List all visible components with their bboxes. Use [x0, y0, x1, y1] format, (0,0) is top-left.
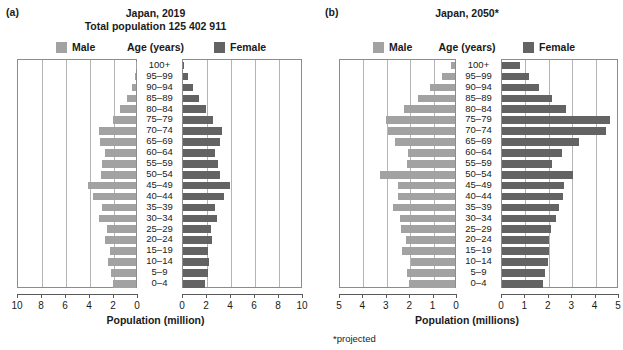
x-axis-tick [524, 294, 525, 298]
x-axis-tick [548, 294, 549, 298]
bar-male-55–59 [407, 160, 455, 168]
bar-row [18, 171, 136, 179]
bar-row [340, 258, 455, 266]
x-axis-tick [386, 294, 387, 298]
bar-female-30–34 [502, 215, 556, 223]
bar-male-0–4 [113, 280, 136, 288]
bar-female-30–34 [183, 215, 217, 223]
bar-row [340, 171, 455, 179]
x-axis-tick-label: 8 [268, 300, 288, 311]
bar-male-85–89 [418, 95, 455, 103]
bar-row [183, 204, 301, 212]
x-axis-tick-label: 5 [608, 300, 623, 311]
bar-row [502, 280, 617, 288]
population-pyramid-figure: (a) Japan, 2019 Total population 125 402… [0, 0, 623, 350]
bar-female-90–94 [183, 84, 193, 92]
bar-row [502, 215, 617, 223]
age-label-20–24: 20–24 [137, 234, 182, 244]
panel-a-axis-title: Population (million) [0, 314, 311, 326]
bar-female-80–84 [183, 105, 206, 113]
bar-female-45–49 [502, 182, 564, 190]
age-label-20–24: 20–24 [456, 234, 501, 244]
bar-male-15–19 [402, 247, 455, 255]
age-label-75–79: 75–79 [456, 114, 501, 124]
bar-row [502, 160, 617, 168]
bar-male-65–69 [100, 138, 136, 146]
bar-row [502, 193, 617, 201]
bar-row [183, 95, 301, 103]
bar-female-65–69 [183, 138, 220, 146]
legend-swatch-female-icon [214, 42, 225, 53]
age-label-0–4: 0–4 [456, 278, 501, 288]
bar-rows-left [340, 60, 455, 287]
bar-row [502, 269, 617, 277]
age-label-5–9: 5–9 [456, 267, 501, 277]
bar-row [502, 116, 617, 124]
bar-male-15–19 [110, 247, 136, 255]
x-axis-tick-label: 8 [31, 300, 51, 311]
panel-b-age-labels: 100+95–9990–9485–8980–8475–7970–7465–696… [456, 59, 501, 288]
x-axis-right [501, 294, 618, 295]
bar-female-15–19 [502, 247, 549, 255]
bar-row [502, 258, 617, 266]
bar-row [340, 73, 455, 81]
bar-row [18, 215, 136, 223]
panel-japan-2050: (b) Japan, 2050* Male Age (years) Female… [311, 0, 623, 350]
x-axis-tick [595, 294, 596, 298]
bar-male-95–99 [135, 73, 136, 81]
bar-male-25–29 [401, 225, 455, 233]
panel-b-title: Japan, 2050* [311, 7, 623, 20]
bar-male-100+ [451, 62, 455, 70]
age-label-80–84: 80–84 [137, 104, 182, 114]
bar-row [502, 138, 617, 146]
bar-row [183, 193, 301, 201]
x-axis-tick [113, 294, 114, 298]
legend-entry-female: Female [523, 41, 575, 53]
bar-rows-left [18, 60, 136, 287]
bar-female-80–84 [502, 105, 566, 113]
x-axis-tick [618, 294, 619, 298]
bar-row [183, 73, 301, 81]
bar-male-90–94 [132, 84, 136, 92]
bar-male-50–54 [101, 171, 136, 179]
x-axis-tick-label: 5 [329, 300, 349, 311]
x-axis-tick-label: 3 [376, 300, 396, 311]
bar-rows-right [183, 60, 301, 287]
bar-row [502, 127, 617, 135]
bar-row [183, 149, 301, 157]
legend-label-age: Age (years) [311, 41, 623, 53]
bar-female-5–9 [183, 269, 208, 277]
bar-row [340, 116, 455, 124]
age-label-10–14: 10–14 [456, 256, 501, 266]
bar-female-5–9 [502, 269, 545, 277]
bar-row [340, 182, 455, 190]
bar-row [183, 171, 301, 179]
bar-female-10–14 [183, 258, 209, 266]
bar-row [18, 105, 136, 113]
panel-japan-2019: (a) Japan, 2019 Total population 125 402… [0, 0, 311, 350]
age-label-95–99: 95–99 [137, 71, 182, 81]
age-label-35–39: 35–39 [137, 202, 182, 212]
panel-a-titles: Japan, 2019 Total population 125 402 911 [0, 7, 311, 33]
bar-row [183, 127, 301, 135]
x-axis-tick-label: 1 [514, 300, 534, 311]
x-axis-tick-label: 4 [79, 300, 99, 311]
x-axis-tick-label: 10 [7, 300, 27, 311]
bar-row [502, 149, 617, 157]
bar-female-75–79 [502, 116, 610, 124]
x-axis-tick [433, 294, 434, 298]
bar-male-80–84 [120, 105, 136, 113]
bar-row [18, 160, 136, 168]
bar-female-70–74 [502, 127, 606, 135]
age-label-30–34: 30–34 [456, 213, 501, 223]
age-label-70–74: 70–74 [456, 125, 501, 135]
bar-female-20–24 [502, 236, 549, 244]
bar-female-100+ [183, 62, 184, 70]
bar-male-10–14 [411, 258, 455, 266]
panel-b-axis-title: Population (millions) [311, 314, 623, 326]
bar-female-95–99 [502, 73, 529, 81]
x-axis-tick [230, 294, 231, 298]
bar-female-75–79 [183, 116, 213, 124]
bar-male-70–74 [388, 127, 455, 135]
bar-row [502, 204, 617, 212]
